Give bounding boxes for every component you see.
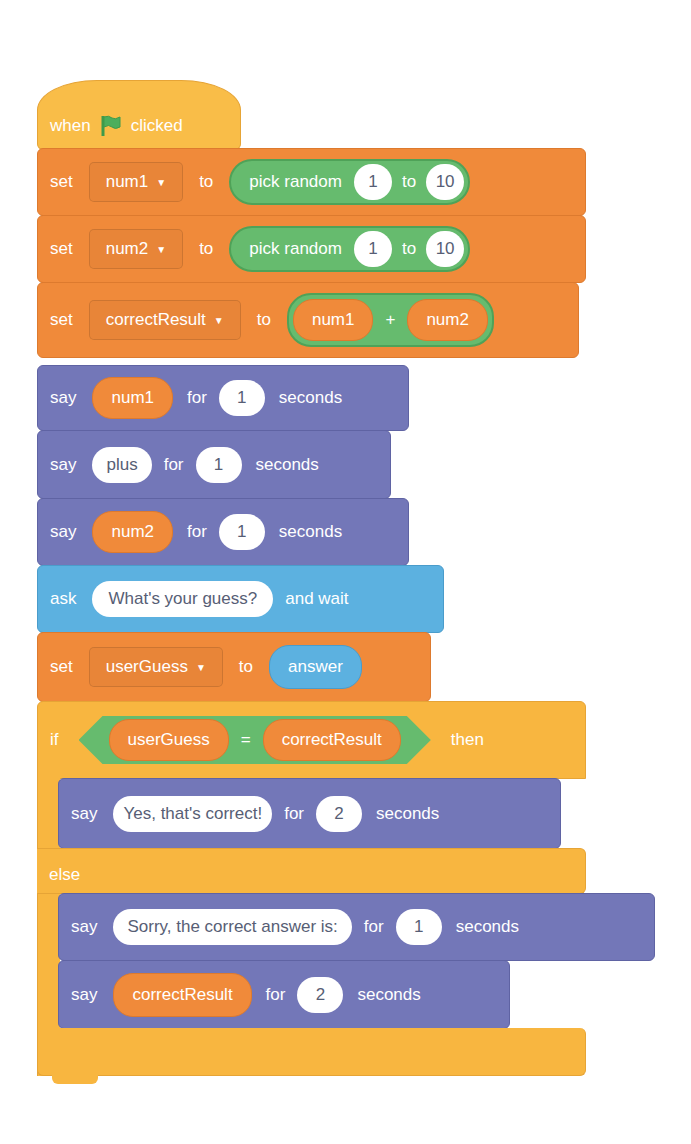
clicked-label: clicked: [131, 116, 183, 136]
message-input[interactable]: plus: [92, 447, 151, 483]
set-label: set: [50, 172, 73, 192]
if-label: if: [50, 730, 59, 750]
seconds-label: seconds: [456, 917, 519, 937]
for-label: for: [164, 455, 184, 475]
random-to-input[interactable]: 10: [426, 164, 464, 200]
pick-random-reporter[interactable]: pick random 1 to 10: [229, 159, 470, 205]
to-label: to: [239, 657, 253, 677]
then-label: then: [451, 730, 484, 750]
variable-name: userGuess: [106, 657, 188, 677]
to-label: to: [402, 239, 416, 259]
say-label: say: [71, 917, 97, 937]
equals-condition[interactable]: userGuess = correctResult: [79, 716, 431, 764]
userguess-variable-reporter[interactable]: userGuess: [109, 719, 229, 761]
message-input[interactable]: Yes, that's correct!: [113, 796, 272, 832]
seconds-label: seconds: [279, 522, 342, 542]
dropdown-arrow-icon: ▼: [156, 244, 166, 255]
say-sorry-block[interactable]: say Sorry, the correct answer is: for 1 …: [58, 893, 655, 961]
to-label: to: [257, 310, 271, 330]
variable-name: correctResult: [106, 310, 206, 330]
pick-random-reporter[interactable]: pick random 1 to 10: [229, 226, 470, 272]
and-wait-label: and wait: [285, 589, 348, 609]
to-label: to: [199, 239, 213, 259]
seconds-label: seconds: [256, 455, 319, 475]
to-label: to: [199, 172, 213, 192]
dropdown-arrow-icon: ▼: [156, 177, 166, 188]
for-label: for: [364, 917, 384, 937]
correctresult-variable-reporter[interactable]: correctResult: [113, 973, 251, 1017]
message-input[interactable]: Sorry, the correct answer is:: [113, 909, 351, 945]
say-label: say: [71, 985, 97, 1005]
ask-and-wait-block[interactable]: ask What's your guess? and wait: [37, 565, 444, 633]
green-flag-icon: [101, 115, 121, 137]
to-label: to: [402, 172, 416, 192]
seconds-input[interactable]: 2: [316, 796, 362, 832]
seconds-label: seconds: [376, 804, 439, 824]
dropdown-arrow-icon: ▼: [196, 662, 206, 673]
say-correctresult-block[interactable]: say correctResult for 2 seconds: [58, 960, 510, 1029]
set-num2-block[interactable]: set num2 ▼ to pick random 1 to 10: [37, 215, 586, 283]
equals-operator: =: [241, 730, 251, 750]
say-label: say: [50, 388, 76, 408]
variable-dropdown-userguess[interactable]: userGuess ▼: [89, 647, 223, 687]
variable-dropdown-num2[interactable]: num2 ▼: [89, 229, 183, 269]
seconds-input[interactable]: 2: [297, 977, 343, 1013]
seconds-input[interactable]: 1: [396, 909, 442, 945]
seconds-label: seconds: [279, 388, 342, 408]
num1-variable-reporter[interactable]: num1: [92, 377, 173, 419]
if-else-block-bottom: [37, 1028, 586, 1076]
set-label: set: [50, 657, 73, 677]
for-label: for: [284, 804, 304, 824]
say-num1-block[interactable]: say num1 for 1 seconds: [37, 365, 409, 431]
pick-random-label: pick random: [249, 172, 342, 192]
seconds-input[interactable]: 1: [196, 447, 242, 483]
num2-variable-reporter[interactable]: num2: [407, 299, 488, 341]
answer-reporter[interactable]: answer: [269, 645, 362, 689]
question-input[interactable]: What's your guess?: [92, 581, 273, 617]
set-userguess-block[interactable]: set userGuess ▼ to answer: [37, 632, 431, 702]
random-from-input[interactable]: 1: [354, 231, 392, 267]
variable-dropdown-correctresult[interactable]: correctResult ▼: [89, 300, 241, 340]
set-num1-block[interactable]: set num1 ▼ to pick random 1 to 10: [37, 148, 586, 216]
dropdown-arrow-icon: ▼: [214, 315, 224, 326]
say-correct-block[interactable]: say Yes, that's correct! for 2 seconds: [58, 778, 561, 849]
say-label: say: [71, 804, 97, 824]
say-label: say: [50, 455, 76, 475]
pick-random-label: pick random: [249, 239, 342, 259]
if-else-block-tab: [52, 1075, 98, 1084]
num1-variable-reporter[interactable]: num1: [293, 299, 374, 341]
num2-variable-reporter[interactable]: num2: [92, 511, 173, 553]
for-label: for: [187, 388, 207, 408]
correctresult-variable-reporter[interactable]: correctResult: [263, 719, 401, 761]
say-label: say: [50, 522, 76, 542]
else-label: else: [49, 865, 80, 885]
for-label: for: [187, 522, 207, 542]
when-flag-clicked-block[interactable]: when clicked: [37, 80, 241, 150]
random-to-input[interactable]: 10: [426, 231, 464, 267]
addition-reporter[interactable]: num1 + num2: [287, 293, 494, 347]
set-label: set: [50, 239, 73, 259]
set-correctresult-block[interactable]: set correctResult ▼ to num1 + num2: [37, 282, 579, 358]
seconds-input[interactable]: 1: [219, 380, 265, 416]
say-num2-block[interactable]: say num2 for 1 seconds: [37, 498, 409, 566]
ask-label: ask: [50, 589, 76, 609]
if-else-block[interactable]: if userGuess = correctResult then: [37, 701, 586, 779]
when-label: when: [50, 116, 91, 136]
for-label: for: [266, 985, 286, 1005]
variable-name: num2: [106, 239, 149, 259]
variable-name: num1: [106, 172, 149, 192]
variable-dropdown-num1[interactable]: num1 ▼: [89, 162, 183, 202]
else-section: else: [37, 848, 586, 894]
plus-operator: +: [385, 310, 395, 330]
seconds-label: seconds: [357, 985, 420, 1005]
set-label: set: [50, 310, 73, 330]
say-plus-block[interactable]: say plus for 1 seconds: [37, 430, 391, 499]
seconds-input[interactable]: 1: [219, 514, 265, 550]
random-from-input[interactable]: 1: [354, 164, 392, 200]
